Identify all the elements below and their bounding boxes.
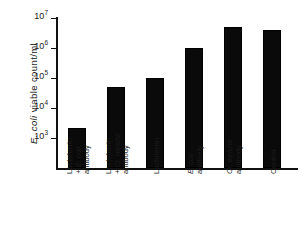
- x-label-3-line-1: antibody: [196, 112, 205, 174]
- x-label-2-line-0: Lactoferrin: [153, 112, 162, 174]
- y-tick-label-4: 103: [16, 132, 48, 142]
- y-axis-title: E. coli viable count/ml: [28, 14, 39, 174]
- y-tick-exponent-1: 6: [44, 39, 48, 46]
- x-tick-label-4: Cl. welchii antibody: [226, 112, 243, 174]
- y-tick-label-0: 107: [16, 12, 48, 22]
- y-axis-line: [56, 17, 58, 169]
- y-tick-exponent-0: 7: [44, 9, 48, 16]
- x-tick-label-1: Lactoferrin + Cl. welchii antibody: [105, 112, 131, 174]
- x-axis-line: [56, 168, 298, 170]
- y-tick-mark-1: [51, 48, 57, 49]
- x-tick-label-2: Lactoferrin: [153, 112, 162, 174]
- y-tick-exponent-2: 5: [44, 69, 48, 76]
- x-label-5-line-0: Control: [270, 112, 279, 174]
- y-tick-mark-3: [51, 108, 57, 109]
- y-tick-label-2: 105: [16, 72, 48, 82]
- x-label-1-line-2: antibody: [122, 112, 131, 174]
- y-tick-label-1: 106: [16, 42, 48, 52]
- x-tick-label-5: Control: [270, 112, 279, 174]
- x-tick-label-0: Lactoferrin + E. coli antibody: [66, 112, 92, 174]
- y-tick-exponent-3: 4: [44, 99, 48, 106]
- y-tick-exponent-4: 3: [44, 129, 48, 136]
- x-label-0-line-2: antibody: [83, 112, 92, 174]
- chart-figure: E. coli viable count/ml 107 106 105 104 …: [0, 0, 303, 238]
- y-tick-mantissa-3: 10: [34, 101, 44, 111]
- y-tick-mark-4: [51, 138, 57, 139]
- y-tick-mark-2: [51, 78, 57, 79]
- y-tick-mantissa-4: 10: [34, 131, 44, 141]
- y-tick-mantissa-1: 10: [34, 41, 44, 51]
- x-label-4-line-1: antibody: [235, 112, 244, 174]
- y-tick-mantissa-2: 10: [34, 71, 44, 81]
- y-tick-mark-0: [51, 18, 57, 19]
- y-tick-mantissa-0: 10: [34, 11, 44, 21]
- y-tick-label-3: 104: [16, 102, 48, 112]
- x-tick-label-3: E. coli antibody: [187, 112, 204, 174]
